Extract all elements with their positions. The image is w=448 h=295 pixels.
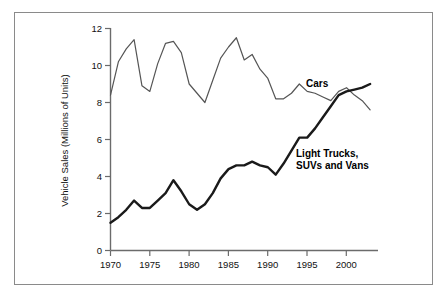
y-tick-label-10: 10 bbox=[80, 61, 102, 71]
series-line-cars bbox=[111, 38, 371, 110]
axis-lines bbox=[111, 28, 379, 251]
y-tick-label-2: 2 bbox=[80, 209, 102, 219]
series-annotation-light-trucks: Light Trucks,SUVs and Vans bbox=[296, 148, 369, 171]
x-tick-label-1995: 1995 bbox=[290, 260, 324, 270]
series-annotation-cars: Cars bbox=[306, 78, 328, 90]
y-tick-label-12: 12 bbox=[80, 24, 102, 34]
y-axis-title: Vehicle Sales (Millions of Units) bbox=[59, 51, 70, 231]
x-tick-label-1980: 1980 bbox=[172, 260, 206, 270]
series-annotation-light-trucks-line2: SUVs and Vans bbox=[296, 160, 369, 171]
series-annotation-light-trucks-line1: Light Trucks, bbox=[296, 148, 358, 159]
x-tick-label-1970: 1970 bbox=[94, 260, 128, 270]
x-tick-label-2000: 2000 bbox=[329, 260, 363, 270]
chart-figure: Vehicle Sales (Millions of Units) 12 10 … bbox=[0, 0, 448, 295]
y-tick-label-4: 4 bbox=[80, 172, 102, 182]
y-tick-label-0: 0 bbox=[80, 246, 102, 256]
x-tick-marks bbox=[111, 251, 347, 257]
y-tick-label-6: 6 bbox=[80, 135, 102, 145]
y-tick-marks bbox=[105, 29, 111, 251]
x-tick-label-1990: 1990 bbox=[251, 260, 285, 270]
x-tick-label-1985: 1985 bbox=[211, 260, 245, 270]
y-tick-label-8: 8 bbox=[80, 98, 102, 108]
x-tick-label-1975: 1975 bbox=[133, 260, 167, 270]
